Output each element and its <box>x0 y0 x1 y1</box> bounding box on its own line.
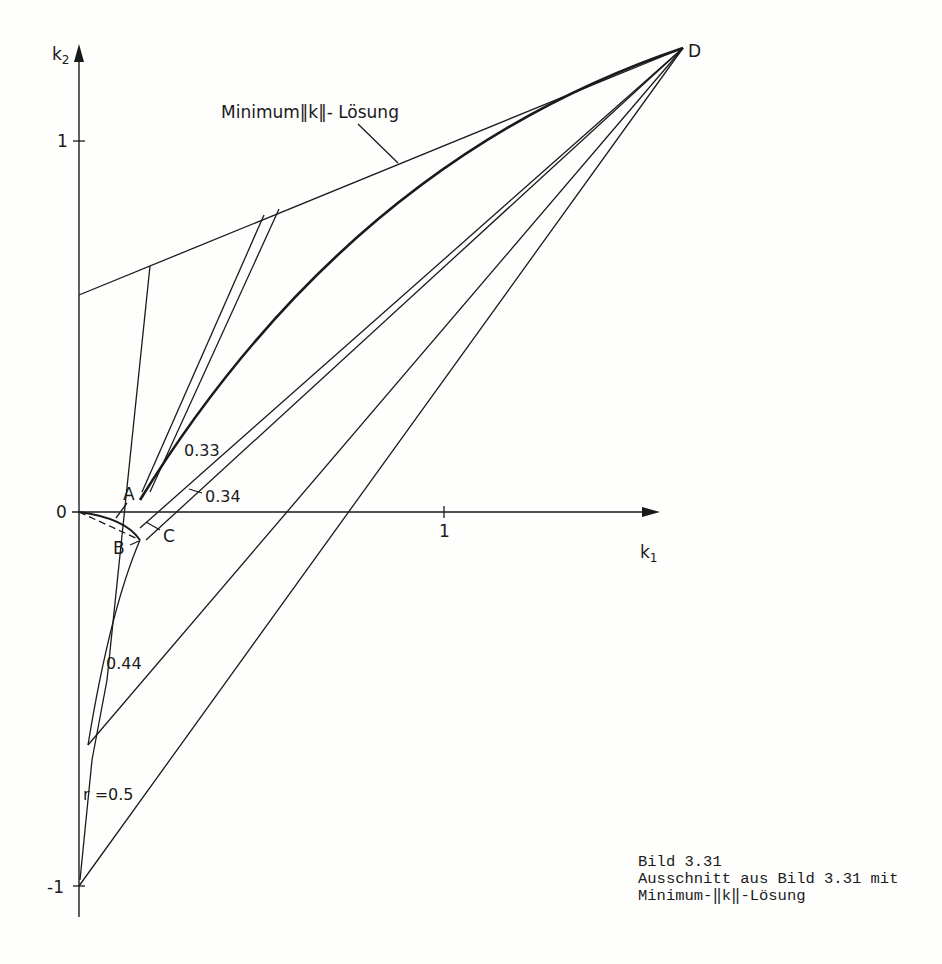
caption-title: Bild 3.31 <box>638 854 898 871</box>
figure-caption: Bild 3.31Ausschnitt aus Bild 3.31 mitMin… <box>638 854 898 905</box>
origin-label: 0 <box>56 502 67 522</box>
caption-line-2: Ausschnitt aus Bild 3.31 mit <box>638 871 898 888</box>
k2-axis-arrow-icon <box>74 44 84 62</box>
dashed-o-to-b <box>79 512 140 540</box>
y-tick-neg1-label: -1 <box>47 877 64 897</box>
r05-label: r =0.5 <box>83 785 134 804</box>
min-norm-leader <box>358 124 398 163</box>
point-b-label: B <box>113 538 125 558</box>
line-a-to-boundary <box>107 266 150 680</box>
leader-c <box>146 522 160 530</box>
point-c-label: C <box>163 526 175 546</box>
min-norm-label: Minimum‖k‖- Lösung <box>221 102 399 122</box>
line-05 <box>79 48 683 886</box>
x-axis-label: k1 <box>640 542 658 565</box>
r033-label: 0.33 <box>184 441 220 460</box>
y-axis-label: k2 <box>52 44 70 67</box>
diagram-canvas: k2 k1 0 1 -1 1 A B C D Minimum‖k‖- Lösun… <box>0 0 942 964</box>
y-tick-1-label: 1 <box>57 131 68 151</box>
x-tick-1-label: 1 <box>439 521 450 541</box>
r034-label: 0.34 <box>205 487 241 506</box>
r044-label: 0.44 <box>106 654 142 673</box>
leader-a <box>116 503 127 518</box>
point-d-label: D <box>688 41 701 61</box>
line-044 <box>88 48 683 745</box>
k1-axis-arrow-icon <box>642 507 660 517</box>
point-a-label: A <box>123 484 135 504</box>
caption-line-3: Minimum-‖k‖-Lösung <box>638 888 898 905</box>
